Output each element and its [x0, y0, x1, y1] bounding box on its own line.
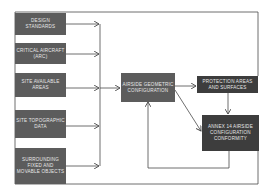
input-surrounding-objects: Surrounding Fixed and Movable Objects: [15, 148, 66, 184]
annex-label: Annex 14 Airside Configuration Conformit…: [203, 124, 258, 142]
input-critical-aircraft: Critical Aircraft (ARC): [15, 43, 66, 64]
airside-geometric-configuration-box: Airside Geometric Configuration: [121, 73, 175, 102]
input-label: Site Available Areas: [16, 79, 65, 91]
input-design-standards: Design Standards: [15, 13, 66, 35]
input-label: Critical Aircraft (ARC): [16, 48, 65, 60]
protection-label: Protection Areas and Surfaces: [198, 79, 257, 91]
input-site-available-areas: Site Available Areas: [15, 73, 66, 97]
input-site-topographic-data: Site Topographic Data: [15, 110, 66, 138]
input-label: Site Topographic Data: [16, 118, 65, 130]
central-label: Airside Geometric Configuration: [122, 82, 174, 94]
input-label: Surrounding Fixed and Movable Objects: [16, 157, 65, 175]
input-label: Design Standards: [16, 18, 65, 30]
annex-14-conformity-box: Annex 14 Airside Configuration Conformit…: [202, 115, 259, 151]
protection-areas-box: Protection Areas and Surfaces: [197, 76, 258, 93]
